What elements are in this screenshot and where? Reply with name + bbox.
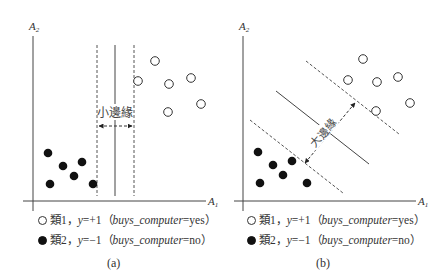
panel-a: A2 A1 小邊緣 [23,20,218,211]
x-axis-label: A1 [417,195,428,209]
caption-a: (a) [107,256,120,271]
y-axis-label: A2 [28,20,40,34]
class2-points [254,148,312,188]
class1-points [134,57,206,117]
legend-b-class2: 類2，y=−1（buys_computer=no） [247,233,421,247]
panel-b: A2 A1 大邊緣 [234,20,428,211]
class1-points [344,55,415,116]
small-margin-label: 小邊緣 [97,106,133,120]
legend-a-class1: 類1，y=+1（buys_computer=yes） [38,213,216,227]
large-margin-label: 大邊緣 [307,116,338,150]
legend-a-class2: 類2，y=−1（buys_computer=no） [38,233,212,247]
class2-points [44,149,98,189]
x-axis-label: A1 [207,195,218,209]
caption-b: (b) [316,256,330,271]
margin-boundary-upper [306,61,399,134]
filled-circle-icon [38,236,47,245]
open-circle-icon [38,216,47,225]
filled-circle-icon [247,236,256,245]
open-circle-icon [247,216,256,225]
y-axis-label: A2 [238,20,250,34]
legend-b-class1: 類1，y=+1（buys_computer=yes） [247,213,425,227]
